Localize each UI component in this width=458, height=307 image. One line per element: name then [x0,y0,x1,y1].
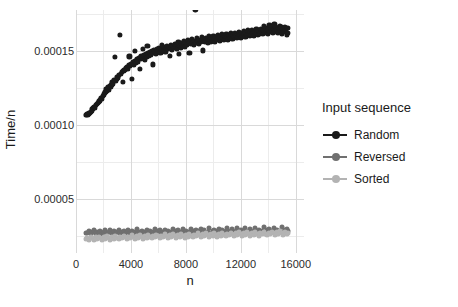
gridline-major-vertical [296,10,297,253]
legend-key-icon [322,170,348,188]
legend-entries: RandomReversedSorted [322,124,452,190]
gridline-major-horizontal [76,199,304,200]
chart-root: Time/n 0.000050.000100.00015 04000800012… [0,0,458,307]
gridline-minor-horizontal [76,162,304,163]
x-axis-tick: 8000 [174,258,198,270]
y-axis-tick-labels: 0.000050.000100.00015 [0,0,74,307]
legend-key-icon [322,126,348,144]
legend-item-sorted[interactable]: Sorted [322,168,452,190]
legend-key-dot [332,153,340,161]
y-axis-tick: 0.00015 [8,45,74,57]
legend-item-reversed[interactable]: Reversed [322,146,452,168]
gridline-minor-vertical [268,10,269,253]
x-axis-tick: 4000 [119,258,143,270]
x-axis-tick: 12000 [226,258,257,270]
legend-item-random[interactable]: Random [322,124,452,146]
data-point-random [201,48,206,53]
legend-item-label: Reversed [354,150,405,164]
legend-item-label: Random [354,128,399,142]
legend-title: Input sequence [322,100,452,115]
gridline-major-horizontal [76,125,304,126]
data-point-random [137,66,142,71]
data-point-random [150,62,155,67]
data-point-random [177,51,182,56]
data-point-sorted [286,230,291,235]
legend-item-label: Sorted [354,172,389,186]
gridline-minor-horizontal [76,14,304,15]
legend: Input sequence RandomReversedSorted [322,100,452,190]
data-point-random [129,76,134,81]
legend-key-dot [332,131,340,139]
legend-key-icon [322,148,348,166]
gridline-major-vertical [131,10,132,253]
y-axis-tick: 0.00010 [8,119,74,131]
legend-key-dot [332,175,340,183]
data-point-random [187,50,192,55]
gridline-major-vertical [76,10,77,253]
x-axis-tick: 0 [73,258,79,270]
y-axis-tick: 0.00005 [8,193,74,205]
data-point-random [112,54,117,59]
plot-panel [76,10,304,253]
x-axis-title: n [76,273,304,288]
x-axis-tick: 16000 [280,258,311,270]
data-point-random [120,79,125,84]
gridline-major-vertical [241,10,242,253]
gridline-minor-vertical [103,10,104,253]
gridline-minor-vertical [213,10,214,253]
data-point-random [117,33,122,38]
data-point-random [167,53,172,58]
data-point-random [132,49,137,54]
data-point-random [193,10,198,13]
data-point-random [286,30,291,35]
